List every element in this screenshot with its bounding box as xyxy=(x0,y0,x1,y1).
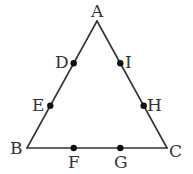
triangle-edges xyxy=(27,21,167,148)
point-i xyxy=(117,60,123,66)
label-point-i: I xyxy=(125,52,132,72)
label-vertex-c: C xyxy=(169,141,182,161)
edge-ca xyxy=(97,21,167,148)
point-f xyxy=(71,145,77,151)
triangle-diagram: A B C D E F G H I xyxy=(0,0,193,174)
point-labels: A B C D E F G H I xyxy=(10,1,182,172)
label-point-f: F xyxy=(68,152,80,172)
label-point-g: G xyxy=(114,152,128,172)
label-point-e: E xyxy=(32,95,44,115)
label-point-d: D xyxy=(55,52,69,72)
point-h xyxy=(141,103,147,109)
point-d xyxy=(71,60,77,66)
point-g xyxy=(117,145,123,151)
edge-ab xyxy=(27,21,97,148)
label-point-h: H xyxy=(147,95,162,115)
point-e xyxy=(47,103,53,109)
division-points xyxy=(47,60,147,151)
label-vertex-a: A xyxy=(90,1,104,21)
label-vertex-b: B xyxy=(10,138,23,158)
